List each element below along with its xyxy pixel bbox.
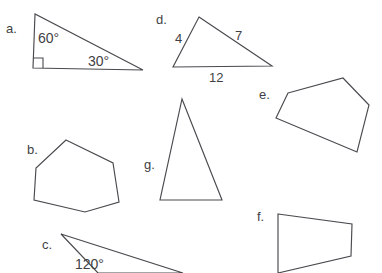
shape-key-d: d.: [156, 13, 167, 26]
shape-key-a: a.: [6, 22, 17, 35]
geometry-worksheet: a. 60° 30° b. c. 120° d. 4 7 12 e. f. g.: [0, 0, 382, 273]
shape-d-side-4: 4: [175, 32, 182, 45]
shape-a-angle-30: 30°: [88, 54, 109, 68]
shape-key-g: g.: [144, 158, 155, 171]
shape-key-f: f.: [257, 210, 264, 223]
labels-layer: a. 60° 30° b. c. 120° d. 4 7 12 e. f. g.: [0, 0, 382, 273]
shape-d-side-12: 12: [209, 71, 223, 84]
shape-a-angle-60: 60°: [38, 31, 59, 45]
shape-key-e: e.: [259, 88, 270, 101]
shape-key-c: c.: [42, 238, 52, 251]
shape-d-side-7: 7: [235, 29, 242, 42]
shape-key-b: b.: [27, 143, 38, 156]
shape-c-angle-120: 120°: [75, 257, 104, 271]
